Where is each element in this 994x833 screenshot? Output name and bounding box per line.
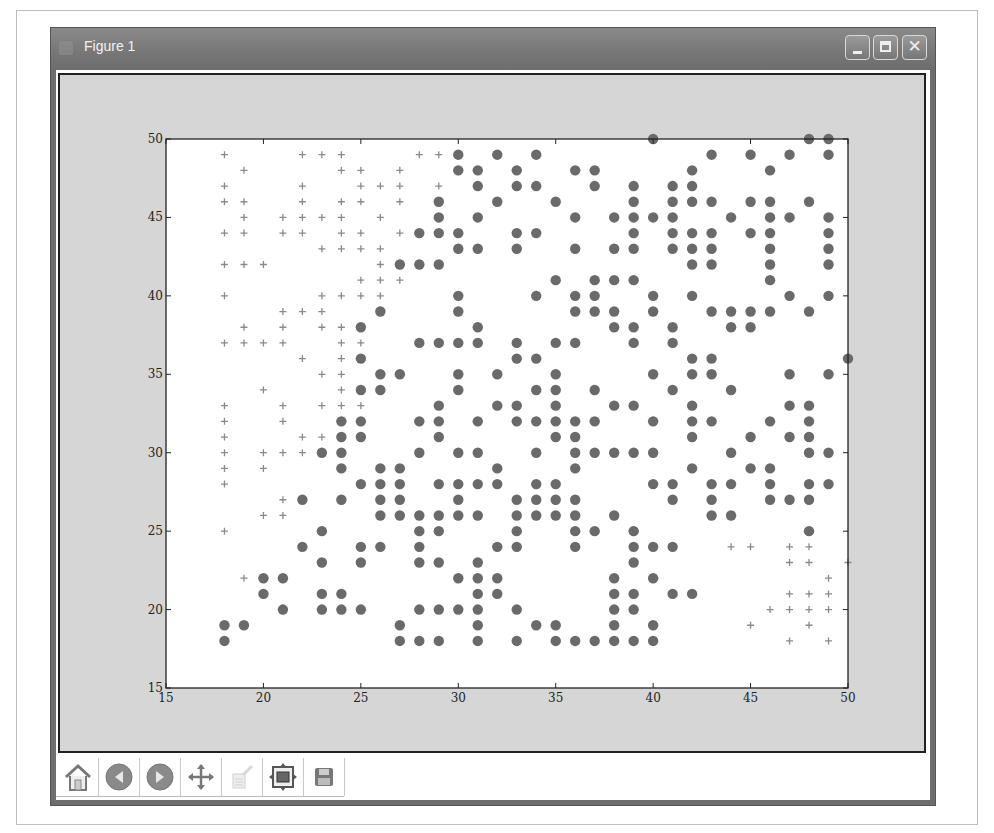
circle-marker	[531, 479, 541, 489]
circle-marker	[258, 573, 268, 583]
circle-marker	[336, 604, 346, 614]
circle-marker	[551, 275, 561, 285]
circle-marker	[687, 463, 697, 473]
circle-marker	[434, 212, 444, 222]
circle-marker	[278, 573, 288, 583]
circle-marker	[551, 369, 561, 379]
pan-button[interactable]	[181, 758, 222, 796]
circle-marker	[336, 416, 346, 426]
circle-marker	[239, 620, 249, 630]
circle-marker	[765, 306, 775, 316]
subplots-config-icon	[268, 762, 298, 792]
title-bar[interactable]: Figure 1 ✕	[51, 28, 935, 68]
circle-marker	[745, 228, 755, 238]
circle-marker	[512, 510, 522, 520]
circle-marker	[667, 338, 677, 348]
close-button[interactable]: ✕	[902, 35, 927, 60]
circle-marker	[453, 604, 463, 614]
circle-marker	[531, 228, 541, 238]
circle-marker	[804, 432, 814, 442]
forward-button[interactable]	[140, 758, 181, 796]
zoom-button[interactable]	[222, 758, 263, 796]
circle-marker	[453, 495, 463, 505]
circle-marker	[356, 353, 366, 363]
x-tick-label: 50	[840, 691, 855, 705]
close-icon: ✕	[907, 36, 921, 56]
scatter-plot[interactable]: 15202530354045501520253035404550	[60, 75, 924, 751]
circle-marker	[317, 448, 327, 458]
circle-marker	[492, 542, 502, 552]
minimize-button[interactable]	[845, 35, 870, 60]
circle-marker	[628, 542, 638, 552]
circle-marker	[589, 636, 599, 646]
circle-marker	[628, 448, 638, 458]
circle-marker	[609, 636, 619, 646]
circle-marker	[648, 306, 658, 316]
circle-marker	[375, 495, 385, 505]
circle-marker	[765, 275, 775, 285]
circle-marker	[414, 416, 424, 426]
circle-marker	[609, 400, 619, 410]
x-tick-label: 40	[646, 691, 661, 705]
circle-marker	[512, 228, 522, 238]
circle-marker	[784, 291, 794, 301]
circle-marker	[414, 557, 424, 567]
subplots-button[interactable]	[263, 758, 304, 796]
circle-marker	[356, 557, 366, 567]
figure-canvas[interactable]: 15202530354045501520253035404550	[58, 73, 926, 753]
circle-marker	[706, 259, 716, 269]
circle-marker	[531, 510, 541, 520]
circle-marker	[531, 448, 541, 458]
back-button[interactable]	[99, 758, 140, 796]
navigation-toolbar	[56, 756, 930, 800]
circle-marker	[395, 636, 405, 646]
circle-marker	[706, 416, 716, 426]
circle-marker	[687, 400, 697, 410]
circle-marker	[648, 479, 658, 489]
circle-marker	[628, 244, 638, 254]
circle-marker	[434, 557, 444, 567]
circle-marker	[336, 432, 346, 442]
circle-marker	[609, 212, 619, 222]
circle-marker	[551, 385, 561, 395]
circle-marker	[453, 228, 463, 238]
x-tick-label: 20	[256, 691, 271, 705]
circle-marker	[609, 589, 619, 599]
circle-marker	[512, 604, 522, 614]
circle-marker	[531, 181, 541, 191]
circle-marker	[551, 338, 561, 348]
circle-marker	[395, 259, 405, 269]
circle-marker	[570, 291, 580, 301]
plot-area[interactable]	[166, 139, 848, 688]
y-tick-label: 35	[148, 367, 163, 381]
circle-marker	[317, 526, 327, 536]
circle-marker	[473, 212, 483, 222]
circle-marker	[375, 385, 385, 395]
circle-marker	[589, 275, 599, 285]
circle-marker	[473, 181, 483, 191]
circle-marker	[765, 259, 775, 269]
circle-marker	[628, 338, 638, 348]
x-tick-label: 30	[451, 691, 466, 705]
circle-marker	[551, 416, 561, 426]
circle-marker	[473, 620, 483, 630]
home-button[interactable]	[58, 758, 99, 796]
circle-marker	[648, 448, 658, 458]
circle-marker	[356, 385, 366, 395]
circle-marker	[726, 448, 736, 458]
circle-marker	[706, 353, 716, 363]
maximize-button[interactable]	[873, 35, 898, 60]
circle-marker	[823, 259, 833, 269]
circle-marker	[687, 589, 697, 599]
circle-marker	[628, 636, 638, 646]
save-button[interactable]	[304, 758, 345, 796]
circle-marker	[667, 212, 677, 222]
circle-marker	[473, 416, 483, 426]
circle-marker	[434, 604, 444, 614]
circle-marker	[706, 228, 716, 238]
circle-marker	[687, 353, 697, 363]
circle-marker	[453, 369, 463, 379]
back-arrow-icon	[104, 762, 134, 792]
circle-marker	[356, 479, 366, 489]
forward-arrow-icon	[145, 762, 175, 792]
